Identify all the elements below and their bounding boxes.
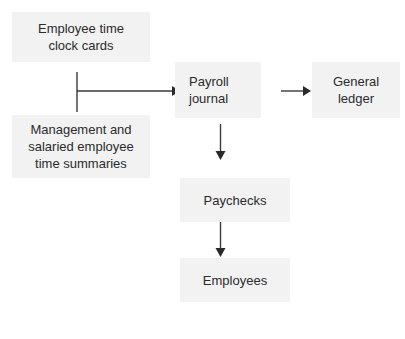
edge-paychecks-to-employees bbox=[216, 222, 226, 257]
payroll-flowchart: Employee time clock cards Management and… bbox=[0, 0, 405, 339]
node-general-ledger: General ledger bbox=[312, 62, 400, 118]
node-employee-time-clock-cards: Employee time clock cards bbox=[12, 12, 150, 62]
edge-payroll-to-ledger bbox=[281, 86, 311, 96]
arrowhead-down-icon bbox=[216, 151, 226, 160]
edge-payroll-to-paychecks bbox=[216, 124, 226, 160]
node-payroll-journal: Payroll journal bbox=[175, 62, 261, 118]
node-management-salaried-time-summaries: Management and salaried employee time su… bbox=[12, 115, 150, 178]
edge-inputs-to-payroll bbox=[77, 72, 180, 112]
node-paychecks: Paychecks bbox=[180, 178, 290, 222]
arrowhead-right-icon bbox=[303, 86, 311, 96]
arrowhead-down-icon bbox=[216, 248, 226, 257]
node-employees: Employees bbox=[180, 258, 290, 302]
